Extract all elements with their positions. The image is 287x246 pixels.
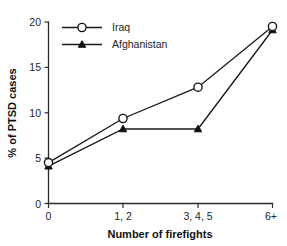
legend-entry-afghanistan: Afghanistan (62, 38, 168, 50)
x-tick-labels: 0 1, 2 3, 4, 5 6+ (46, 210, 277, 222)
y-tick-label-20: 20 (29, 16, 41, 28)
y-tick-label-5: 5 (35, 152, 41, 164)
iraq-marker-1 (119, 114, 127, 122)
x-tick-label-3-4-5: 3, 4, 5 (183, 210, 212, 222)
y-tick-labels: 20 15 10 5 0 (29, 16, 41, 210)
legend-label-iraq: Iraq (112, 21, 130, 33)
iraq-marker-3 (268, 22, 276, 30)
y-axis-title: % of PTSD cases (6, 68, 18, 157)
afghanistan-line (49, 30, 273, 166)
x-axis-title: Number of firefights (107, 228, 212, 240)
iraq-marker-0 (44, 159, 52, 167)
ptsd-firefights-line-chart: 20 15 10 5 0 0 1, 2 3, 4, 5 6+ Number of… (0, 0, 287, 246)
y-tick-label-15: 15 (29, 61, 41, 73)
iraq-marker-2 (194, 83, 202, 91)
x-tick-label-1-2: 1, 2 (114, 210, 132, 222)
chart-legend: Iraq Afghanistan (62, 21, 168, 50)
x-tick-label-0: 0 (46, 210, 52, 222)
y-tick-label-0: 0 (35, 198, 41, 210)
legend-label-afghanistan: Afghanistan (112, 38, 168, 50)
x-tick-label-6plus: 6+ (265, 210, 277, 222)
legend-entry-iraq: Iraq (62, 21, 130, 33)
open-circle-marker-icon (78, 23, 86, 31)
chart-canvas: 20 15 10 5 0 0 1, 2 3, 4, 5 6+ Number of… (0, 0, 287, 246)
x-tick-marks (49, 204, 273, 209)
y-tick-label-10: 10 (29, 107, 41, 119)
